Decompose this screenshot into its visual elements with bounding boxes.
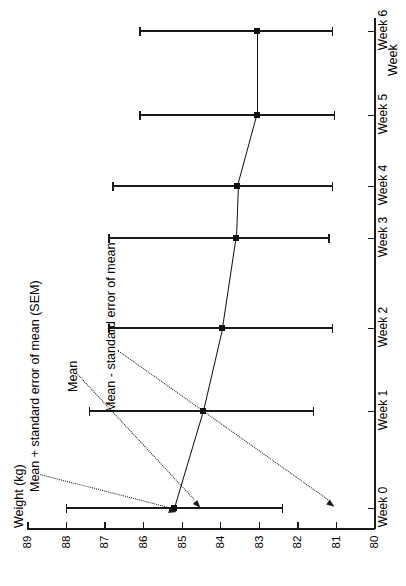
week-tick	[368, 508, 375, 509]
error-bar	[112, 185, 332, 187]
week-tick-label: Week 1	[376, 378, 390, 442]
error-bar-cap	[334, 111, 336, 120]
error-bar-cap	[282, 504, 284, 513]
weight-tick-label: 81	[330, 527, 342, 557]
line-segment	[237, 115, 257, 186]
error-bar-cap	[332, 324, 334, 333]
leader-arrowhead	[327, 500, 337, 510]
mean-marker	[234, 183, 240, 189]
week-tick	[368, 186, 375, 187]
error-bar-cap	[139, 27, 141, 36]
mean-marker	[233, 235, 239, 241]
error-bar	[139, 30, 332, 32]
leader-arrowhead	[168, 507, 177, 515]
weight-axis-title: Weight (kg)	[12, 464, 26, 528]
week-tick	[368, 115, 375, 116]
line-segment	[257, 31, 258, 115]
weight-axis-line	[27, 528, 375, 530]
week-tick	[368, 238, 375, 239]
week-tick-label: Week 5	[376, 82, 390, 146]
error-bar-cap	[332, 27, 334, 36]
weight-tick-label: 85	[176, 527, 188, 557]
error-bar-cap	[313, 407, 315, 416]
week-tick	[368, 411, 375, 412]
mean-marker	[254, 28, 260, 34]
leader-sem-plus	[40, 474, 169, 508]
line-segment	[236, 186, 239, 238]
week-tick	[368, 328, 375, 329]
week-tick	[368, 31, 375, 32]
weight-over-time-chart: Weight (kg) Week 89888786858483828180Wee…	[0, 0, 406, 586]
weight-tick-label: 86	[137, 527, 149, 557]
line-segment	[203, 328, 223, 411]
mean-marker	[254, 112, 260, 118]
week-tick-label: Week 0	[376, 475, 390, 539]
annotation-sem-minus: Mean - standard error of mean	[104, 242, 118, 412]
error-bar-cap	[328, 234, 330, 243]
week-tick-label: Week 4	[376, 153, 390, 217]
leader-sem-minus	[117, 350, 328, 500]
error-bar-cap	[332, 182, 334, 191]
weight-tick-label: 89	[21, 527, 33, 557]
error-bar-cap	[89, 407, 91, 416]
weight-tick-label: 83	[253, 527, 265, 557]
weight-tick-label: 82	[291, 527, 303, 557]
error-bar-cap	[139, 111, 141, 120]
mean-marker	[219, 325, 225, 331]
error-bar-cap	[66, 504, 68, 513]
error-bar-cap	[112, 182, 114, 191]
weight-tick-label: 87	[98, 527, 110, 557]
annotation-sem-plus: Mean + standard error of mean (SEM)	[28, 280, 42, 492]
weight-tick-label: 84	[214, 527, 226, 557]
week-tick-label: Week 6	[376, 0, 390, 62]
line-segment	[222, 238, 236, 328]
week-tick-label: Week 2	[376, 295, 390, 359]
weight-tick-label: 88	[60, 527, 72, 557]
error-bar	[139, 114, 334, 116]
error-bar	[108, 237, 328, 239]
